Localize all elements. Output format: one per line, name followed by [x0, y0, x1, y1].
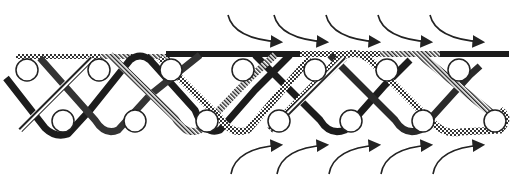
roller: [196, 110, 218, 132]
roller: [160, 59, 182, 81]
roller: [16, 59, 38, 81]
flow-arrow-icon: [326, 15, 378, 42]
flow-arrow-icon: [228, 15, 280, 42]
bottom-flow-arrows: [231, 145, 482, 174]
flow-arrow-icon: [231, 145, 280, 174]
flow-arrow-icon: [430, 15, 482, 42]
roller: [268, 110, 290, 132]
top-flow-arrows: [228, 15, 482, 42]
roller: [484, 110, 506, 132]
roller: [304, 59, 326, 81]
flow-arrow-icon: [277, 145, 326, 174]
flow-arrow-icon: [381, 145, 430, 174]
roller: [88, 59, 110, 81]
roller: [448, 59, 470, 81]
braid-diagram: [0, 0, 532, 188]
flow-arrow-icon: [378, 15, 430, 42]
roller: [52, 110, 74, 132]
roller: [340, 110, 362, 132]
flow-arrow-icon: [274, 15, 326, 42]
roller: [124, 110, 146, 132]
roller: [376, 59, 398, 81]
roller: [412, 110, 434, 132]
flow-arrow-icon: [329, 145, 378, 174]
flow-arrow-icon: [433, 145, 482, 174]
roller: [232, 59, 254, 81]
